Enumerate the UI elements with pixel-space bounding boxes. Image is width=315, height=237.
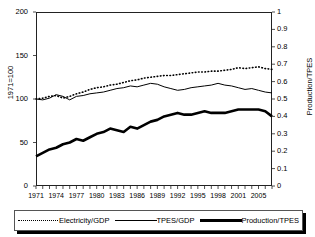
legend-item[interactable]: Production/TPES	[200, 216, 299, 225]
y-tick-label-right: 0.7	[277, 60, 303, 68]
legend-swatch-dotted-icon	[18, 218, 58, 224]
x-tick-label: 2005	[246, 192, 272, 200]
y-tick-label-right: 0.2	[277, 147, 303, 155]
y-tick-label-right: 0.3	[277, 130, 303, 138]
y-tick-label-left: 150	[2, 52, 28, 60]
legend-item-label: TPES/GDP	[156, 216, 194, 225]
legend-item[interactable]: TPES/GDP	[115, 216, 194, 225]
legend-item[interactable]: Electricity/GDP	[18, 216, 109, 225]
y-tick-label-left: 200	[2, 8, 28, 16]
y-axis-label-left: 1971=100	[6, 53, 15, 113]
legend-swatch-thin-line-icon	[115, 218, 155, 224]
y-tick-label-right: 1	[277, 8, 303, 16]
y-tick-label-right: 0.9	[277, 25, 303, 33]
y-tick-label-right: 0.5	[277, 95, 303, 103]
y-tick-label-right: 0.4	[277, 112, 303, 120]
chart-legend: Electricity/GDP TPES/GDP Production/TPES	[14, 210, 303, 231]
legend-item-label: Electricity/GDP	[59, 216, 109, 225]
legend-swatch-thick-line-icon	[200, 218, 240, 224]
y-tick-label-right: 0	[277, 182, 303, 190]
legend-item-label: Production/TPES	[241, 216, 299, 225]
series-line	[36, 83, 272, 100]
y-axis-label-right: Production/TPES	[305, 47, 314, 127]
y-tick-label-right: 0.8	[277, 43, 303, 51]
y-tick-label-left: 100	[2, 95, 28, 103]
series-line	[36, 67, 272, 99]
y-tick-label-left: 0	[2, 182, 28, 190]
chart-container: 1971=100 Production/TPES 050100150200 00…	[0, 0, 315, 237]
series-line	[36, 109, 272, 156]
y-tick-label-right: 0.1	[277, 165, 303, 173]
chart-svg	[0, 0, 315, 237]
y-tick-label-right: 0.6	[277, 78, 303, 86]
y-tick-label-left: 50	[2, 139, 28, 147]
